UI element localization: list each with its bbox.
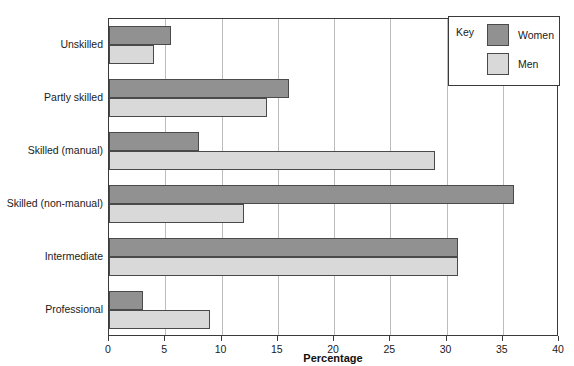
legend-title: Key [456,26,474,38]
legend: Key Women Men [448,16,560,86]
x-axis-tick-mark [108,336,109,341]
y-axis-label: Skilled (non-manual) [0,177,103,230]
x-axis-tick-mark [502,336,503,341]
y-axis-label: Skilled (manual) [0,124,103,177]
x-axis-tick-mark [558,336,559,341]
bar-women [109,79,289,98]
bar-men [109,98,267,117]
bar-group [109,178,557,231]
legend-label-men: Men [518,53,538,75]
x-axis-tick-mark [389,336,390,341]
legend-swatch-men [487,53,509,75]
x-axis-title: Percentage [108,352,558,364]
y-axis-label: Partly skilled [0,71,103,124]
legend-swatch-women [487,24,509,46]
y-axis-category-labels: UnskilledPartly skilledSkilled (manual)S… [0,18,103,336]
bar-women [109,291,143,310]
y-axis-label: Professional [0,283,103,336]
bar-women [109,132,199,151]
x-axis-tick-mark [446,336,447,341]
bar-men [109,310,210,329]
x-axis-tick-mark [221,336,222,341]
x-axis-tick-mark [164,336,165,341]
x-axis-tick-mark [277,336,278,341]
bar-chart: UnskilledPartly skilledSkilled (manual)S… [0,0,574,366]
y-axis-label: Intermediate [0,230,103,283]
bar-group [109,231,557,284]
bar-men [109,204,244,223]
legend-label-women: Women [518,24,554,46]
bar-women [109,185,514,204]
bar-group [109,125,557,178]
bar-women [109,26,171,45]
bar-men [109,151,435,170]
bar-women [109,238,458,257]
bar-men [109,45,154,64]
bar-group [109,284,557,337]
y-axis-label: Unskilled [0,18,103,71]
x-axis-tick-mark [333,336,334,341]
bar-men [109,257,458,276]
